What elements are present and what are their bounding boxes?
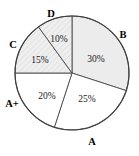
slice-percentage-label: 15% <box>31 55 49 65</box>
pie-chart-svg: 30%25%20%15%10% BAA+CD <box>0 0 139 156</box>
slice-percentage-label: 20% <box>38 91 56 101</box>
slice-category-label: A+ <box>5 98 19 109</box>
slice-category-label: C <box>9 39 17 50</box>
slice-percentage-label: 10% <box>50 34 68 44</box>
slice-category-label: D <box>47 8 55 19</box>
slice-category-label: B <box>119 29 126 40</box>
pie-chart-figure: 30%25%20%15%10% BAA+CD <box>0 0 139 156</box>
slice-category-label: A <box>88 136 96 147</box>
slice-percentage-label: 25% <box>78 94 96 104</box>
slice-percentage-label: 30% <box>87 54 105 64</box>
